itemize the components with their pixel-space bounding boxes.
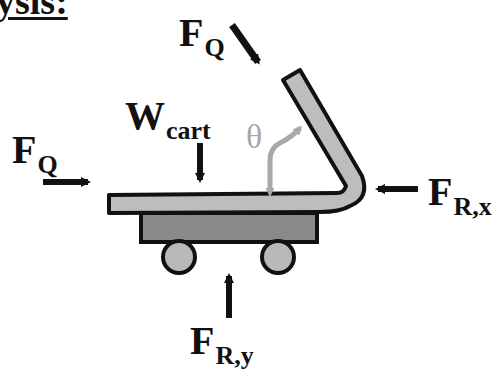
label-fq-left: FQ <box>12 130 58 178</box>
label-w-cart: Wcart <box>125 96 211 144</box>
label-sub: Q <box>37 150 57 179</box>
label-theta: θ <box>246 120 262 154</box>
cart-base <box>141 213 317 242</box>
fq-top-arrow-icon <box>232 25 258 62</box>
label-sub: Q <box>204 33 224 62</box>
label-fr-y: FR,y <box>190 321 254 369</box>
label-fq-top: FQ <box>179 13 225 61</box>
label-main: F <box>190 318 214 363</box>
label-sub: R,x <box>453 192 491 221</box>
wheel-right-icon <box>262 241 294 273</box>
label-fr-x: FR,x <box>428 172 492 220</box>
label-main: F <box>428 169 452 214</box>
label-sub: R,y <box>215 341 253 370</box>
label-main: W <box>125 93 165 138</box>
label-main: F <box>12 127 36 172</box>
theta-arrow-icon <box>270 128 300 191</box>
label-main: F <box>179 10 203 55</box>
label-sub: cart <box>166 116 211 145</box>
wheel-left-icon <box>163 241 195 273</box>
